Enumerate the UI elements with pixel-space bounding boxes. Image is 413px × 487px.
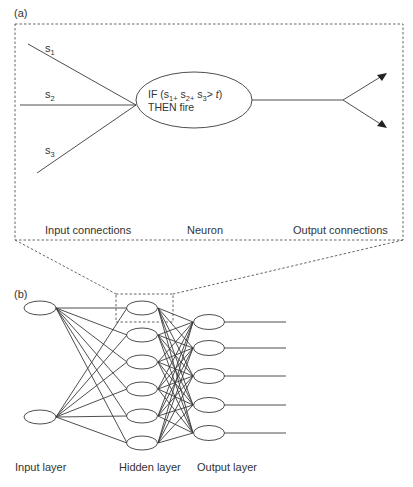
output-connections xyxy=(252,73,387,128)
panel-b-label: (b) xyxy=(14,288,27,300)
label-input-layer: Input layer xyxy=(15,461,67,473)
hidden-node xyxy=(127,409,158,423)
output-layer-nodes xyxy=(194,315,225,441)
output-branch-up xyxy=(343,76,382,100)
output-node xyxy=(194,426,225,441)
label-output-layer: Output layer xyxy=(197,461,257,473)
output-node xyxy=(194,341,225,356)
zoom-projection-left xyxy=(15,240,116,294)
hidden-node xyxy=(127,301,158,315)
input-label-s3: s3 xyxy=(45,144,55,159)
input-node xyxy=(24,301,56,315)
input-node xyxy=(24,410,56,424)
caption-output-connections: Output connections xyxy=(293,224,388,236)
input-connections xyxy=(20,44,136,173)
output-node xyxy=(194,369,225,384)
hidden-node xyxy=(127,436,158,450)
caption-neuron: Neuron xyxy=(187,224,223,236)
hidden-output-connections xyxy=(158,308,193,443)
zoom-projection-right xyxy=(173,240,403,294)
hidden-node xyxy=(127,355,158,369)
hidden-layer-nodes xyxy=(127,301,158,450)
output-node xyxy=(194,315,225,330)
input-hidden-connections xyxy=(56,308,127,443)
output-layer-lines xyxy=(224,322,286,433)
label-hidden-layer: Hidden layer xyxy=(119,461,181,473)
arrowhead-up-icon xyxy=(377,73,387,81)
input-label-s2: s2 xyxy=(45,88,55,103)
neural-network-diagram: (a) s1 s2 s3 IF (s1+ s2+ s3> t) THEN fir… xyxy=(0,0,413,487)
arrowhead-down-icon xyxy=(377,120,387,128)
neuron-rule-line2: THEN fire xyxy=(148,101,194,113)
output-node xyxy=(194,398,225,413)
hidden-node xyxy=(127,328,158,342)
output-branch-down xyxy=(343,100,382,125)
panel-a-label: (a) xyxy=(14,7,27,19)
input-line-s3 xyxy=(37,105,136,173)
hidden-node xyxy=(127,382,158,396)
caption-input-connections: Input connections xyxy=(45,224,132,236)
input-layer-nodes xyxy=(24,301,56,424)
panel-a-dashed-frame xyxy=(15,24,403,240)
